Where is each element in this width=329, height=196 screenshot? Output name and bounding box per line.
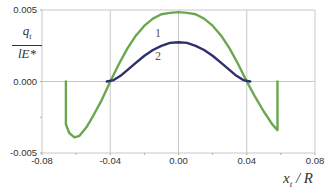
x-tick-label: 0.04: [238, 155, 257, 166]
curve-label: 1: [155, 26, 161, 40]
y-tick-label: -0.005: [10, 147, 37, 158]
y-tick-label: 0.000: [13, 76, 37, 87]
data-series: [66, 12, 278, 137]
y-label-denominator: lE*: [12, 46, 42, 61]
curve-label: 2: [155, 49, 161, 63]
x-tick-label: 0.00: [169, 155, 188, 166]
x-tick-label: 0.08: [306, 155, 325, 166]
curve-labels: 12: [155, 26, 161, 63]
y-tick-label: 0.005: [13, 4, 37, 15]
x-axis-label: xt / R: [283, 170, 313, 189]
x-tick-label: -0.04: [99, 155, 121, 166]
series-1-line: [66, 12, 278, 137]
y-label-numerator: qt: [12, 24, 42, 46]
chart-plot: -0.08-0.040.000.040.080.0050.000-0.005 1…: [0, 0, 329, 196]
y-axis-label: qt lE*: [12, 24, 42, 61]
